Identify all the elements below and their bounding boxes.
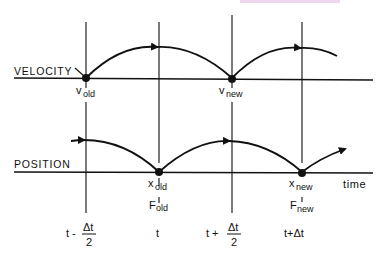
x-old-label: x old [148, 177, 167, 192]
svg-text:F: F [149, 199, 156, 211]
svg-text:new: new [226, 89, 243, 99]
x-old-point [155, 168, 163, 176]
tick-t-plus-dt: t+Δt [284, 227, 304, 239]
position-axis [14, 172, 373, 173]
time-gridlines [86, 15, 302, 213]
velocity-arcs [86, 47, 337, 78]
tick-t: t [156, 227, 159, 239]
tick-t-minus-half-dt: t - Δt 2 [66, 221, 96, 248]
svg-text:old: old [156, 203, 168, 213]
x-new-label: x new [289, 177, 313, 192]
position-arcs [71, 140, 345, 172]
svg-text:2: 2 [231, 236, 237, 248]
x-new-point [298, 169, 306, 177]
svg-text:F: F [290, 199, 297, 211]
svg-text:v: v [76, 84, 82, 96]
svg-text:x: x [148, 177, 154, 189]
svg-text:old: old [83, 89, 95, 99]
svg-text:Δt: Δt [228, 221, 238, 233]
velocity-label: VELOCITY [14, 65, 72, 77]
svg-text:old: old [155, 182, 167, 192]
leapfrog-diagram: VELOCITY POSITION time v old v new x old… [0, 0, 384, 261]
svg-text:new: new [297, 204, 314, 214]
time-axis-label: time [343, 178, 366, 190]
svg-text:t +: t + [206, 227, 219, 239]
svg-text:v: v [219, 84, 225, 96]
svg-text:2: 2 [86, 236, 92, 248]
velocity-leader [75, 68, 84, 76]
v-new-point [228, 75, 236, 83]
v-new-label: v new [219, 84, 243, 99]
svg-text:x: x [289, 177, 295, 189]
position-label: POSITION [14, 158, 71, 170]
velocity-axis [14, 78, 373, 80]
tick-t-plus-half-dt: t + Δt 2 [206, 221, 241, 248]
svg-text:t -: t - [66, 227, 76, 239]
svg-text:new: new [296, 182, 313, 192]
svg-text:Δt: Δt [83, 221, 93, 233]
